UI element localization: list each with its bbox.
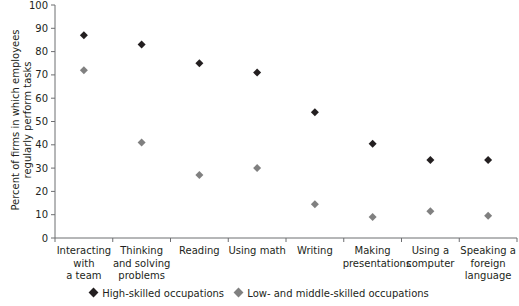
y-axis-title: Percent of firms in which employees regu… — [10, 20, 34, 220]
low-middle-skilled-point — [484, 212, 492, 220]
x-category-label: Using math — [227, 245, 287, 258]
x-category-label-line: Using math — [227, 245, 287, 258]
y-tick-label: 70 — [35, 69, 48, 80]
y-tick-label: 100 — [29, 0, 48, 11]
legend-label-low: Low- and middle-skilled occupations — [247, 288, 429, 299]
x-category-label-line: Writing — [285, 245, 345, 258]
low-middle-skilled-point — [369, 213, 377, 221]
low-middle-skilled-point — [253, 164, 261, 172]
y-tick-label: 20 — [35, 186, 48, 197]
high-skilled-point — [253, 69, 261, 77]
y-tick-label: 90 — [35, 23, 48, 34]
x-category-label: Reading — [169, 245, 229, 258]
high-skilled-point — [426, 156, 434, 164]
high-skilled-point — [484, 156, 492, 164]
y-tick-label: 30 — [35, 163, 48, 174]
legend-item-low: Low- and middle-skilled occupations — [235, 288, 429, 299]
legend: High-skilled occupations Low- and middle… — [0, 288, 519, 299]
low-middle-skilled-point — [138, 138, 146, 146]
x-category-label-line: computer — [400, 258, 460, 271]
x-category-label-line: problems — [112, 270, 172, 283]
x-category-label: Thinkingand solvingproblems — [112, 245, 172, 283]
diamond-marker-icon — [89, 288, 99, 298]
diamond-marker-icon — [234, 288, 244, 298]
x-category-label-line: Using a — [400, 245, 460, 258]
x-category-label-line: foreign — [458, 258, 518, 271]
x-category-label: Makingpresentations — [343, 245, 403, 270]
x-category-label-line: and solving — [112, 258, 172, 271]
legend-item-high: High-skilled occupations — [90, 288, 224, 299]
y-tick-label: 80 — [35, 46, 48, 57]
legend-label-high: High-skilled occupations — [102, 288, 224, 299]
x-category-label-line: presentations — [343, 258, 403, 271]
low-middle-skilled-point — [311, 200, 319, 208]
x-category-label: Using acomputer — [400, 245, 460, 270]
x-category-label-line: Speaking a — [458, 245, 518, 258]
x-category-label-line: Reading — [169, 245, 229, 258]
high-skilled-point — [195, 59, 203, 67]
y-tick-label: 0 — [42, 233, 48, 244]
high-skilled-point — [311, 108, 319, 116]
x-category-label: Speaking aforeignlanguage — [458, 245, 518, 283]
y-tick-label: 10 — [35, 209, 48, 220]
x-category-label: Writing — [285, 245, 345, 258]
y-tick-label: 60 — [35, 93, 48, 104]
x-category-label: Interactingwitha team — [54, 245, 114, 283]
x-category-label-line: Thinking — [112, 245, 172, 258]
high-skilled-point — [369, 140, 377, 148]
x-category-label-line: Making — [343, 245, 403, 258]
high-skilled-point — [80, 31, 88, 39]
low-middle-skilled-point — [195, 171, 203, 179]
x-category-label-line: a team — [54, 270, 114, 283]
y-tick-label: 40 — [35, 139, 48, 150]
x-category-label-line: language — [458, 270, 518, 283]
y-axis-title-line-1: Percent of firms in which employees — [10, 20, 22, 220]
low-middle-skilled-point — [80, 66, 88, 74]
x-category-label-line: with — [54, 258, 114, 271]
low-middle-skilled-point — [426, 207, 434, 215]
high-skilled-point — [138, 41, 146, 49]
y-tick-label: 50 — [35, 116, 48, 127]
y-axis-title-line-2: regularly perform tasks — [22, 20, 34, 220]
x-category-label-line: Interacting — [54, 245, 114, 258]
